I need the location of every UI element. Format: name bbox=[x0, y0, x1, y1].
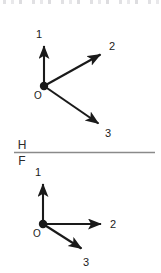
top-view-vector-1-label: 1 bbox=[36, 28, 42, 40]
top-view-vector-3-shaft bbox=[44, 86, 99, 124]
top-view-vector-2-shaft bbox=[44, 55, 101, 87]
top-view-vector-2-label: 2 bbox=[109, 40, 115, 52]
bottom-view-vector-3-shaft bbox=[43, 224, 82, 249]
top-view-group: 1 2 3 O bbox=[34, 28, 115, 139]
horizontal-plane-label: H bbox=[18, 138, 27, 152]
vector-diagram-svg: 1 2 3 O H F 1 2 3 O bbox=[0, 0, 161, 273]
frontal-plane-label: F bbox=[18, 154, 25, 168]
bottom-view-origin-label: O bbox=[33, 228, 41, 239]
figure-container: 1 2 3 O H F 1 2 3 O bbox=[0, 0, 161, 273]
top-view-origin-dot bbox=[40, 82, 48, 90]
bottom-view-group: 1 2 3 O bbox=[33, 166, 116, 268]
top-view-origin-label: O bbox=[34, 90, 42, 101]
bottom-view-vector-3-label: 3 bbox=[83, 256, 89, 268]
bottom-view-origin-dot bbox=[39, 220, 47, 228]
bottom-view-vector-1-label: 1 bbox=[35, 166, 41, 178]
reference-plane-group: H F bbox=[14, 138, 155, 168]
bottom-view-vector-2-label: 2 bbox=[110, 218, 116, 230]
top-view-vector-3-label: 3 bbox=[105, 127, 111, 139]
